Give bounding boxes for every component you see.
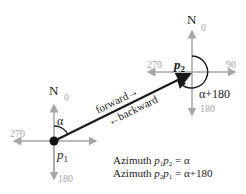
- legend-line-2: Azimuth p2p1 = α+180: [113, 167, 213, 181]
- p2-deg-0: 0: [201, 22, 206, 33]
- p2-label: p2: [173, 57, 186, 74]
- p1-alpha-label: α: [57, 114, 64, 128]
- p1-north-label: N: [49, 83, 59, 98]
- p2-north-label: N: [187, 12, 197, 27]
- p1-deg-180: 180: [58, 173, 73, 184]
- p2-deg-270: 270: [147, 59, 162, 70]
- p2-compass: N 0 270 90 180 α+180 p2: [147, 12, 236, 114]
- azimuth-legend: Azimuth p1p2 = α Azimuth p2p1 = α+180: [113, 154, 213, 181]
- p2-deg-90: 90: [226, 59, 236, 70]
- p1-compass: N 0 270 180 α p1: [10, 83, 93, 184]
- p1-deg-0: 0: [64, 92, 69, 103]
- p2-angle-label: α+180: [199, 87, 230, 101]
- azimuth-line: [54, 75, 188, 141]
- p1-label: p1: [56, 147, 68, 164]
- p1-deg-270: 270: [10, 128, 25, 139]
- p1-point: [50, 137, 59, 146]
- p2-deg-180: 180: [200, 103, 215, 114]
- legend-line-1: Azimuth p1p2 = α: [113, 154, 190, 168]
- azimuth-diagram: N 0 270 180 α p1 N 0 270 90 180 α+180 p2…: [0, 0, 246, 194]
